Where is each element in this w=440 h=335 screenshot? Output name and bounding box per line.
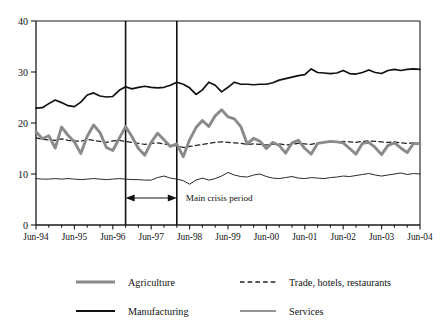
x-tick-label: Jun-03 [369,232,395,242]
y-axis-labels: 40 30 20 10 0 [18,16,28,231]
arrow-head-left [126,195,135,202]
x-axis-labels: Jun-94Jun-95Jun-96Jun-97Jun-98Jun-99Jun-… [23,232,433,242]
y-axis-ticks [31,21,36,225]
legend-label-manufacturing: Manufacturing [128,306,189,317]
x-tick-label: Jun-97 [139,232,165,242]
y-tick-label: 0 [23,220,28,231]
chart-figure: 40 30 20 10 0 Jun-94Jun-95Jun-96Jun-97Ju… [0,0,440,335]
legend-label-trade: Trade, hotels, restaurants [289,277,391,288]
x-tick-label: Jun-00 [254,232,280,242]
x-tick-label: Jun-01 [292,232,318,242]
chart-legend: Agriculture Manufacturing Trade, hotels,… [76,277,391,317]
y-tick-label: 30 [18,67,28,78]
crisis-period-label: Main crisis period [186,193,253,203]
x-tick-label: Jun-02 [331,232,357,242]
series-line-services [36,172,420,184]
series-line-agriculture [36,110,420,157]
y-tick-label: 20 [18,118,28,129]
x-tick-label: Jun-94 [23,232,49,242]
chart-svg: 40 30 20 10 0 Jun-94Jun-95Jun-96Jun-97Ju… [0,0,440,335]
y-tick-label: 40 [18,16,28,27]
series-group [36,69,420,184]
x-tick-label: Jun-99 [215,232,241,242]
legend-label-services: Services [289,306,324,317]
x-tick-label: Jun-04 [407,232,433,242]
crisis-period-markers [126,21,177,225]
crisis-annotation: Main crisis period [126,193,253,203]
x-axis-ticks [36,225,420,230]
x-tick-label: Jun-98 [177,232,203,242]
arrow-head-right [168,195,177,202]
x-tick-label: Jun-95 [62,232,88,242]
y-tick-label: 10 [18,169,28,180]
x-tick-label: Jun-96 [100,232,126,242]
series-line-manufacturing [36,69,420,108]
legend-label-agriculture: Agriculture [128,277,175,288]
